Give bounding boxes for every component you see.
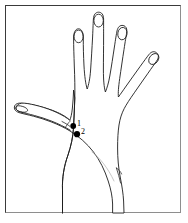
hand-diagram-figure: 1 2 — [0, 0, 188, 223]
marked-point-2-label: 2 — [81, 128, 85, 136]
marked-point-2[interactable] — [74, 131, 80, 137]
hand-line-drawing — [0, 0, 188, 223]
marked-point-1[interactable] — [70, 123, 76, 129]
